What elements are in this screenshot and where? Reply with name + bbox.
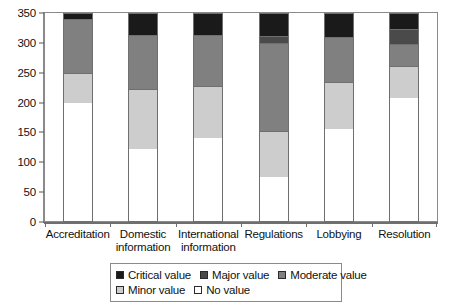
legend-row-1: Critical valueMajor valueModerate value [116,267,336,282]
bar-segment-no-value[interactable] [389,98,419,222]
bar-accreditation[interactable] [63,13,93,222]
bar-segment-moderate-value[interactable] [63,19,93,73]
y-tick-label-50: 50 [24,186,36,198]
legend-swatch-icon [200,271,208,279]
bar-segment-critical-value[interactable] [389,13,419,29]
chart-container: 050100150200250300350 AccreditationDomes… [0,0,450,308]
bar-segment-no-value[interactable] [63,103,93,222]
x-tick-cell [45,222,110,227]
x-axis-label: Lobbying [306,228,371,254]
legend-swatch-icon [116,286,124,294]
y-tick-mark-50 [39,192,44,193]
x-tick-mark [176,222,177,227]
bar-segment-moderate-value[interactable] [259,43,289,131]
bar-slot [110,13,175,222]
x-tick-mark [241,222,242,227]
x-tick-mark [436,222,437,227]
bar-lobbying[interactable] [324,13,354,222]
bar-regulations[interactable] [259,13,289,222]
legend-swatch-icon [194,286,202,294]
bar-segment-moderate-value[interactable] [193,35,223,86]
bar-segment-no-value[interactable] [128,149,158,222]
legend-label: Major value [212,269,269,281]
bar-segment-minor-value[interactable] [389,66,419,98]
x-axis-label: International information [176,228,241,254]
bar-segment-minor-value[interactable] [324,82,354,130]
bar-segment-minor-value[interactable] [193,86,223,139]
bar-resolution[interactable] [389,13,419,222]
y-tick-label-0: 0 [30,216,36,228]
legend-swatch-icon [116,271,124,279]
bar-slot [372,13,437,222]
x-tick-mark [306,222,307,227]
legend-item-minor-value[interactable]: Minor value [116,284,185,296]
x-tick-cell [372,222,437,227]
y-tick-mark-250 [39,72,44,73]
y-tick-label-250: 250 [17,67,36,79]
y-tick-label-100: 100 [17,156,36,168]
y-tick-mark-200 [39,102,44,103]
bar-slot [306,13,371,222]
bar-international-information[interactable] [193,13,223,222]
bar-segment-critical-value[interactable] [259,13,289,36]
y-tick-label-150: 150 [17,126,36,138]
legend-row-2: Minor valueNo value [116,282,336,297]
bar-group [45,13,437,222]
y-tick-mark-350 [39,13,44,14]
plot-area [45,13,437,222]
x-axis-label: Accreditation [45,228,110,254]
bar-slot [176,13,241,222]
x-tick-cell [241,222,306,227]
bar-segment-minor-value[interactable] [259,131,289,177]
legend-label: Minor value [128,284,185,296]
legend-swatch-icon [278,271,286,279]
bar-segment-moderate-value[interactable] [389,44,419,65]
legend-label: Critical value [128,269,191,281]
bar-segment-critical-value[interactable] [193,13,223,35]
legend-item-moderate-value[interactable]: Moderate value [278,269,366,281]
x-axis-labels: AccreditationDomestic informationInterna… [45,228,437,254]
legend-item-major-value[interactable]: Major value [200,269,269,281]
legend-item-critical-value[interactable]: Critical value [116,269,191,281]
legend-label: Moderate value [290,269,366,281]
legend-label: No value [206,284,250,296]
bar-segment-critical-value[interactable] [128,13,158,35]
x-tick-mark [110,222,111,227]
bar-slot [45,13,110,222]
bar-slot [241,13,306,222]
legend-item-no-value[interactable]: No value [194,284,250,296]
bar-segment-critical-value[interactable] [324,13,354,37]
y-tick-mark-300 [39,42,44,43]
bar-segment-moderate-value[interactable] [324,37,354,82]
bar-segment-major-value[interactable] [259,36,289,43]
x-tick-cell [110,222,175,227]
x-axis-label: Regulations [241,228,306,254]
x-axis-label: Resolution [372,228,437,254]
y-tick-label-300: 300 [17,37,36,49]
bar-segment-minor-value[interactable] [128,89,158,149]
bar-segment-moderate-value[interactable] [128,35,158,89]
bar-segment-no-value[interactable] [259,177,289,222]
x-tick-mark [372,222,373,227]
bar-domestic-information[interactable] [128,13,158,222]
y-tick-label-200: 200 [17,97,36,109]
y-tick-mark-100 [39,162,44,163]
x-tick-mark [45,222,46,227]
legend: Critical valueMajor valueModerate value … [110,263,342,302]
x-tick-cell [306,222,371,227]
bar-segment-minor-value[interactable] [63,73,93,103]
x-tick-cell [176,222,241,227]
y-tick-mark-150 [39,132,44,133]
bar-segment-major-value[interactable] [389,29,419,44]
bar-segment-no-value[interactable] [324,129,354,222]
y-tick-label-350: 350 [17,7,36,19]
x-axis-ticks [45,222,437,227]
bar-segment-no-value[interactable] [193,138,223,222]
y-axis: 050100150200250300350 [0,12,44,223]
x-axis-label: Domestic information [110,228,175,254]
